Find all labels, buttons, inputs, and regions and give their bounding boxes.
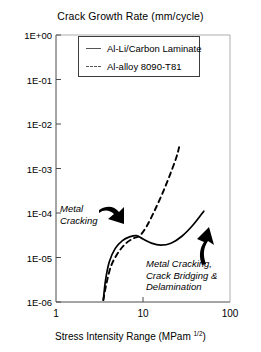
y-tick-label: 1E-05 xyxy=(4,252,52,263)
chart-container: Crack Growth Rate (mm/cycle) 1E+001E-011… xyxy=(0,0,261,352)
legend: Al-Li/Carbon Laminate Al-alloy 8090-T81 xyxy=(78,36,200,77)
annotation-delamination-line-1: Crack Bridging & xyxy=(146,270,217,282)
x-tick-label: 1 xyxy=(53,308,59,319)
legend-line-dashed-icon xyxy=(86,66,101,67)
y-tick-label: 1E+00 xyxy=(4,30,52,41)
y-tick-label: 1E-02 xyxy=(4,119,52,130)
annotation-metal-cracking: Metal Cracking xyxy=(60,203,98,226)
legend-item-laminate: Al-Li/Carbon Laminate xyxy=(86,41,202,55)
annotation-metal-cracking-line-0: Metal xyxy=(60,203,98,215)
y-tick-label: 1E-03 xyxy=(4,163,52,174)
y-tick-label: 1E-06 xyxy=(4,297,52,308)
y-tick-label: 1E-01 xyxy=(4,74,52,85)
x-tick-label: 100 xyxy=(222,308,239,319)
annotation-metal-cracking-line-1: Cracking xyxy=(60,215,98,227)
annotation-delamination-line-0: Metal Cracking, xyxy=(146,258,217,270)
metal-cracking-arrow xyxy=(99,207,124,224)
annotation-delamination: Metal Cracking, Crack Bridging & Delamin… xyxy=(146,258,217,293)
legend-item-alloy: Al-alloy 8090-T81 xyxy=(86,59,181,73)
x-axis-title-exponent: 1/2 xyxy=(194,330,203,337)
y-tick-label: 1E-04 xyxy=(4,208,52,219)
x-tick-label: 10 xyxy=(137,308,148,319)
x-axis-title: Stress Intensity Range (MPam 1/2) xyxy=(0,330,261,342)
y-tick-marks xyxy=(56,35,61,302)
annotation-delamination-line-2: Delamination xyxy=(146,281,217,293)
legend-line-solid-icon xyxy=(86,48,101,49)
legend-label-laminate: Al-Li/Carbon Laminate xyxy=(107,43,202,54)
x-axis-title-main: Stress Intensity Range (MPam xyxy=(55,331,193,342)
x-axis-title-close: ) xyxy=(203,331,206,342)
legend-label-alloy: Al-alloy 8090-T81 xyxy=(107,61,181,72)
